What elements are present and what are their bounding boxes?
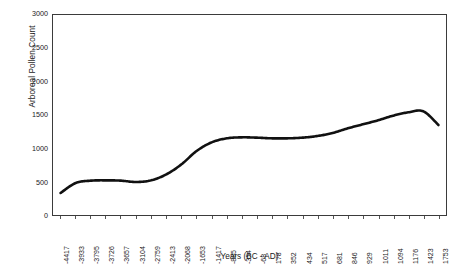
x-tick-mark bbox=[181, 216, 182, 219]
x-tick-mark bbox=[287, 216, 288, 219]
x-tick-mark bbox=[60, 216, 61, 219]
x-tick-mark bbox=[166, 216, 167, 219]
x-axis-tick-labels: -4417-3933-3795-3726-3657-3104-2759-2413… bbox=[52, 216, 447, 272]
x-tick-mark bbox=[439, 216, 440, 219]
x-tick-mark bbox=[75, 216, 76, 219]
x-tick-mark bbox=[90, 216, 91, 219]
x-tick-mark bbox=[212, 216, 213, 219]
x-tick-mark bbox=[196, 216, 197, 219]
x-tick-mark bbox=[363, 216, 364, 219]
x-tick-mark bbox=[257, 216, 258, 219]
y-tick-label: 2500 bbox=[20, 44, 48, 51]
x-tick-mark bbox=[379, 216, 380, 219]
plot-svg bbox=[53, 15, 446, 215]
y-tick-label: 1000 bbox=[20, 145, 48, 152]
x-tick-mark bbox=[333, 216, 334, 219]
plot-area bbox=[52, 14, 447, 216]
x-tick-mark bbox=[227, 216, 228, 219]
x-tick-mark bbox=[272, 216, 273, 219]
x-tick-mark bbox=[242, 216, 243, 219]
y-tick-label: 3000 bbox=[20, 10, 48, 17]
x-tick-mark bbox=[318, 216, 319, 219]
x-tick-mark bbox=[424, 216, 425, 219]
x-tick-mark bbox=[151, 216, 152, 219]
x-axis-title: Years (BC - AD) bbox=[52, 252, 447, 261]
y-axis-tick-labels: 300025002000150010005000 bbox=[18, 0, 48, 272]
x-tick-mark bbox=[409, 216, 410, 219]
y-tick-label: 2000 bbox=[20, 78, 48, 85]
y-tick-label: 1500 bbox=[20, 111, 48, 118]
pollen-count-line-chart: Arboreal Pollen Count 300025002000150010… bbox=[0, 0, 457, 272]
x-tick-mark bbox=[394, 216, 395, 219]
y-tick-label: 0 bbox=[20, 212, 48, 219]
x-tick-mark bbox=[348, 216, 349, 219]
x-tick-mark bbox=[105, 216, 106, 219]
x-tick-mark bbox=[120, 216, 121, 219]
x-tick-mark bbox=[136, 216, 137, 219]
y-tick-label: 500 bbox=[20, 179, 48, 186]
x-tick-mark bbox=[303, 216, 304, 219]
pollen-count-line-series bbox=[61, 110, 439, 193]
